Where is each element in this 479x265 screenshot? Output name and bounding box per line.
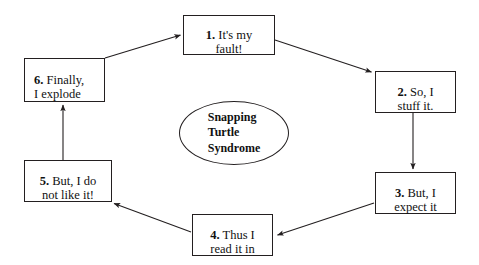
arrow-step4-to-step5 [114,204,191,233]
node-step-3-number: 3. [395,186,404,200]
node-step-1-body: It's my fault! [215,28,252,57]
arrow-step1-to-step2 [275,40,372,72]
node-step-6[interactable]: 6. Finally, I explode [24,58,105,102]
node-step-5-body: But, I do not like it! [42,174,96,203]
node-step-4-number: 4. [210,228,219,242]
node-step-6-number: 6. [34,73,43,87]
arrow-step6-to-step1 [105,35,181,58]
node-step-1[interactable]: 1. It's my fault! [183,15,275,55]
node-step-5[interactable]: 5. But, I do not like it! [24,160,112,202]
node-step-3[interactable]: 3. But, I expect it [375,172,456,214]
center-ellipse: Snapping Turtle Syndrome [179,101,289,165]
node-step-2-label: 2. So, I stuff it. [397,70,433,114]
node-step-4[interactable]: 4. Thus I read it in [192,214,273,256]
snapping-turtle-syndrome-diagram: 1. It's my fault! 2. So, I stuff it. 3. … [0,0,479,265]
center-ellipse-label: Snapping Turtle Syndrome [208,110,260,157]
node-step-4-label: 4. Thus I read it in [210,213,255,257]
arrow-step3-to-step4 [278,203,375,235]
node-step-3-label: 3. But, I expect it [394,171,437,215]
node-step-1-label: 1. It's my fault! [206,13,252,57]
node-step-2[interactable]: 2. So, I stuff it. [375,71,456,113]
node-step-6-label: 6. Finally, I explode [34,58,84,102]
node-step-5-number: 5. [40,174,49,188]
node-step-1-number: 1. [206,28,215,42]
node-step-5-label: 5. But, I do not like it! [40,159,97,203]
node-step-2-number: 2. [397,85,406,99]
